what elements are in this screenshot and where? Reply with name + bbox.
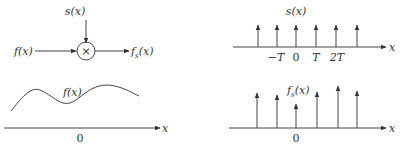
block-diagram: s(x) f(x) × fs(x) <box>13 5 153 60</box>
sampling-comb-plot: s(x) x −T 0 T 2T <box>233 5 396 64</box>
comb-title: s(x) <box>286 5 306 18</box>
modulator-label: s(x) <box>65 5 85 18</box>
continuous-signal-plot: f(x) x 0 <box>4 85 169 145</box>
tick-label: −T <box>268 51 286 64</box>
tick-label: 2T <box>329 51 346 64</box>
sampled-signal-plot: fs(x) x 0 <box>229 84 396 145</box>
x-axis-label: x <box>389 41 396 54</box>
tick-label: 0 <box>293 51 300 64</box>
x-axis-label: x <box>389 122 396 135</box>
output-label: fs(x) <box>130 45 153 60</box>
input-label: f(x) <box>13 45 33 58</box>
x-axis-label: x <box>162 122 169 135</box>
sampled-title: fs(x) <box>286 84 309 99</box>
tick-label: T <box>312 51 321 64</box>
origin-label: 0 <box>293 132 300 145</box>
origin-label: 0 <box>77 132 84 145</box>
multiplier-icon: × <box>81 45 90 58</box>
curve-label: f(x) <box>62 86 82 99</box>
sampling-diagram: s(x) f(x) × fs(x) f(x) x 0 s(x) x −T 0 T… <box>0 0 402 149</box>
impulse-train <box>258 25 357 47</box>
